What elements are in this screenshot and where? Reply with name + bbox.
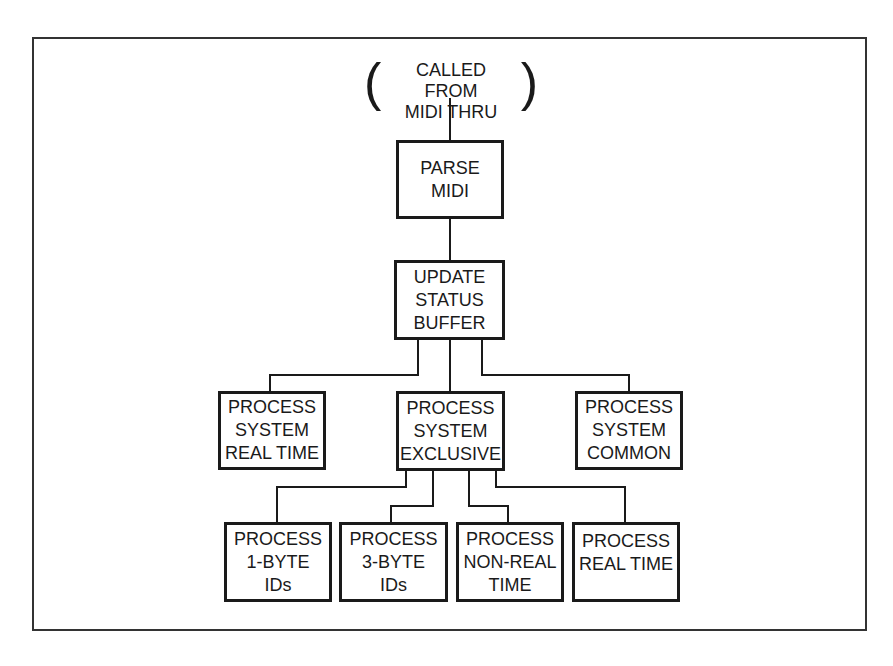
origin-line-2: MIDI THRU	[388, 102, 514, 123]
node-label-line: NON-REAL	[463, 551, 556, 574]
node-label-line: UPDATE	[414, 266, 486, 289]
edge-update-realtime	[270, 338, 418, 392]
close-paren: )	[521, 52, 538, 112]
node-parse-midi: PARSE MIDI	[396, 140, 504, 219]
edge-update-common	[482, 338, 629, 392]
node-label-line: BUFFER	[414, 312, 486, 335]
node-label-line: SYSTEM	[413, 420, 487, 443]
node-label-line: EXCLUSIVE	[400, 443, 501, 466]
open-paren: (	[364, 52, 381, 112]
node-label-line: MIDI	[431, 180, 469, 203]
node-label-line: SYSTEM	[592, 419, 666, 442]
edge-exclusive-realtime	[496, 469, 625, 523]
node-process-system-common: PROCESS SYSTEM COMMON	[575, 391, 683, 470]
node-label-line: PROCESS	[406, 397, 494, 420]
node-label-line: SYSTEM	[235, 419, 309, 442]
node-process-non-real-time: PROCESS NON-REAL TIME	[456, 522, 564, 602]
node-label-line: PROCESS	[234, 528, 322, 551]
node-label-line: IDs	[380, 574, 407, 597]
node-process-1byte-ids: PROCESS 1-BYTE IDs	[224, 522, 332, 602]
edge-exclusive-1byte	[277, 469, 406, 523]
node-label-line: PROCESS	[228, 396, 316, 419]
node-process-real-time: PROCESS REAL TIME	[572, 522, 680, 602]
origin-line-1: CALLED FROM	[388, 60, 514, 102]
node-label-line: TIME	[489, 574, 532, 597]
node-label-line: 3-BYTE	[362, 551, 425, 574]
node-label-line: 1-BYTE	[246, 551, 309, 574]
origin-terminal: ( CALLED FROM MIDI THRU )	[368, 58, 534, 118]
node-label-line: IDs	[265, 574, 292, 597]
node-label-line: PARSE	[420, 157, 480, 180]
node-label-line: PROCESS	[349, 528, 437, 551]
node-update-status-buffer: UPDATE STATUS BUFFER	[394, 260, 505, 340]
node-label-line: STATUS	[415, 289, 483, 312]
edge-exclusive-nonreal	[469, 469, 508, 523]
node-label-line: PROCESS	[466, 528, 554, 551]
edge-exclusive-3byte	[391, 469, 433, 523]
node-process-system-exclusive: PROCESS SYSTEM EXCLUSIVE	[396, 391, 505, 471]
node-label-line: PROCESS	[585, 396, 673, 419]
node-process-3byte-ids: PROCESS 3-BYTE IDs	[339, 522, 448, 602]
node-label-line: REAL TIME	[225, 442, 319, 465]
node-label-line: COMMON	[587, 442, 671, 465]
node-process-system-real-time: PROCESS SYSTEM REAL TIME	[218, 391, 326, 470]
node-label-line: PROCESS	[582, 530, 670, 553]
node-label-line: REAL TIME	[579, 553, 673, 576]
